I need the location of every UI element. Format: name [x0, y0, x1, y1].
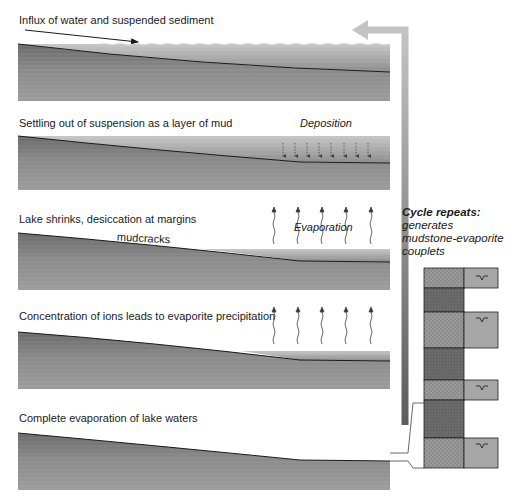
cycle-note: Cycle repeats: generates mudstone-evapor…: [402, 206, 504, 258]
mudstone-layer: [424, 348, 464, 380]
strat-column: [424, 268, 498, 468]
annotation-evaporation: Evaporation: [294, 221, 353, 233]
evaporite-box: [464, 438, 498, 468]
cycle-line2: mudstone-evaporite: [402, 232, 504, 245]
mudstone-layer: [424, 400, 464, 438]
evaporite-layer: [424, 268, 464, 288]
evaporite-box: [464, 312, 498, 348]
cycle-line3: couplets: [402, 245, 504, 258]
caption-settling: Settling out of suspension as a layer of…: [19, 117, 232, 129]
mudstone-layer: [424, 288, 464, 312]
panel-settling: [18, 136, 390, 190]
evaporite-layer: [424, 312, 464, 348]
evaporite-box: [464, 380, 498, 400]
panel-influx: [18, 30, 390, 101]
caption-shrinks: Lake shrinks, desiccation at margins: [19, 213, 196, 225]
influx-arrow: [25, 30, 138, 42]
connector-line-bottom: [390, 461, 424, 468]
evaporite-layer: [424, 438, 464, 468]
caption-concentration: Concentration of ions leads to evaporite…: [19, 310, 275, 322]
evaporite-symbols: [476, 276, 488, 448]
caption-complete: Complete evaporation of lake waters: [19, 412, 198, 424]
caption-influx: Influx of water and suspended sediment: [19, 14, 213, 26]
annotation-deposition: Deposition: [300, 117, 352, 129]
cycle-line1: generates: [402, 219, 504, 232]
evaporite-layer: [424, 380, 464, 400]
cycle-title: Cycle repeats:: [402, 206, 504, 219]
